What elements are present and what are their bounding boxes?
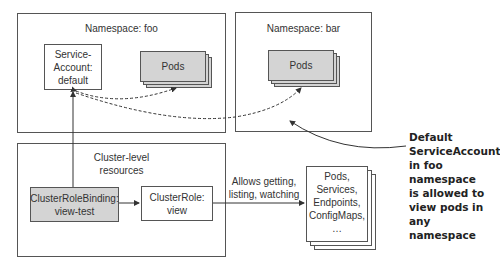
connectors	[0, 0, 497, 269]
